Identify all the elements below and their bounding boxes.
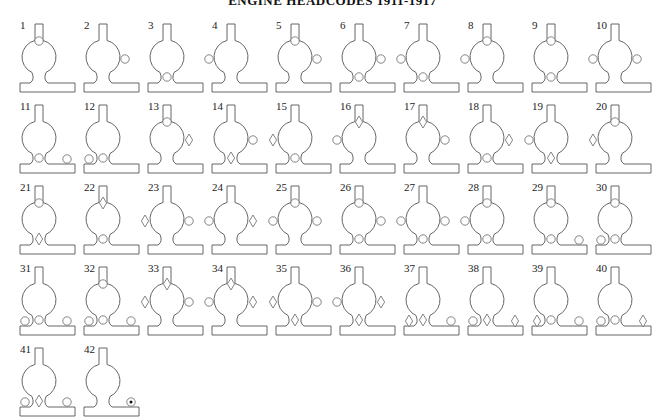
lamp-icon: [21, 317, 29, 325]
headcode-figure: 10: [596, 20, 660, 100]
lamp-icon: [291, 37, 299, 45]
headcode-figure: 7: [404, 20, 468, 100]
diamond-disc-icon: [99, 197, 106, 209]
lamp-icon: [205, 298, 213, 306]
lamp-icon: [313, 298, 321, 306]
diamond-disc-icon: [249, 296, 256, 308]
headcode-figure: 16: [340, 101, 404, 181]
lamp-icon: [291, 199, 299, 207]
headcode-figure: 1: [20, 20, 84, 100]
headcode-figure: 22: [84, 182, 148, 262]
lamp-icon: [35, 37, 43, 45]
lamp-icon: [85, 155, 93, 163]
lamp-icon: [249, 136, 257, 144]
lamp-icon: [63, 317, 71, 325]
lamp-icon: [597, 236, 605, 244]
lamp-icon: [99, 316, 107, 324]
headcode-figure: 21: [20, 182, 84, 262]
locomotive-outline-icon: [404, 263, 468, 343]
headcode-figure: 19: [532, 101, 596, 181]
lamp-icon: [611, 199, 619, 207]
lamp-icon: [547, 316, 555, 324]
locomotive-outline-icon: [340, 101, 404, 181]
headcode-figure: 27: [404, 182, 468, 262]
diamond-disc-icon: [419, 116, 426, 128]
headcode-figure: 8: [468, 20, 532, 100]
lamp-icon: [121, 55, 129, 63]
lamp-icon: [63, 155, 71, 163]
locomotive-outline-icon: [276, 101, 340, 181]
headcode-figure: 3: [148, 20, 212, 100]
headcode-figure: 35: [276, 263, 340, 343]
locomotive-outline-icon: [468, 101, 532, 181]
lamp-icon: [99, 280, 107, 288]
lamp-icon: [483, 235, 491, 243]
diamond-disc-icon: [249, 215, 256, 227]
lamp-icon: [355, 199, 363, 207]
lamp-icon: [397, 217, 405, 225]
dot-icon: [130, 401, 133, 404]
headcode-figure: 40: [596, 263, 660, 343]
locomotive-outline-icon: [468, 182, 532, 262]
diamond-disc-icon: [419, 314, 426, 326]
locomotive-outline-icon: [596, 263, 660, 343]
headcode-figure: 9: [532, 20, 596, 100]
diamond-disc-icon: [511, 315, 518, 327]
lamp-icon: [313, 55, 321, 63]
lamp-icon: [547, 73, 555, 81]
lamp-icon: [291, 154, 299, 162]
lamp-icon: [35, 154, 43, 162]
headcode-figure: 32: [84, 263, 148, 343]
headcode-figure: 33: [148, 263, 212, 343]
headcode-figure: 31: [20, 263, 84, 343]
lamp-icon: [355, 73, 363, 81]
headcode-figure: 42: [84, 344, 148, 419]
locomotive-outline-icon: [404, 20, 468, 100]
headcode-figure: 38: [468, 263, 532, 343]
lamp-icon: [269, 217, 277, 225]
diamond-disc-icon: [291, 314, 298, 326]
lamp-icon: [333, 136, 341, 144]
lamp-icon: [461, 217, 469, 225]
locomotive-outline-icon: [20, 182, 84, 262]
lamp-icon: [333, 298, 341, 306]
lamp-icon: [483, 199, 491, 207]
lamp-icon: [355, 235, 363, 243]
headcode-figure: 4: [212, 20, 276, 100]
lamp-icon: [35, 316, 43, 324]
headcode-figure: 14: [212, 101, 276, 181]
headcode-figure: 17: [404, 101, 468, 181]
locomotive-outline-icon: [20, 101, 84, 181]
diamond-disc-icon: [533, 315, 540, 327]
headcode-figure: 34: [212, 263, 276, 343]
locomotive-outline-icon: [84, 263, 148, 343]
locomotive-outline-icon: [596, 182, 660, 262]
lamp-icon: [35, 199, 43, 207]
locomotive-outline-icon: [532, 101, 596, 181]
locomotive-outline-icon: [212, 182, 276, 262]
lamp-icon: [441, 136, 449, 144]
lamp-icon: [447, 317, 455, 325]
lamp-icon: [377, 217, 385, 225]
locomotive-outline-icon: [276, 182, 340, 262]
headcode-figure: 12: [84, 101, 148, 181]
lamp-icon: [575, 317, 583, 325]
lamp-icon: [461, 55, 469, 63]
diamond-disc-icon: [185, 134, 192, 146]
locomotive-outline-icon: [404, 182, 468, 262]
headcode-figure: 15: [276, 101, 340, 181]
diamond-disc-icon: [639, 315, 646, 327]
lamp-icon: [589, 55, 597, 63]
locomotive-outline-icon: [532, 182, 596, 262]
headcode-figure: 39: [532, 263, 596, 343]
locomotive-outline-icon: [148, 101, 212, 181]
diamond-disc-icon: [547, 152, 554, 164]
headcode-figure: 11: [20, 101, 84, 181]
lamp-icon: [63, 398, 71, 406]
headcode-figure: 2: [84, 20, 148, 100]
headcode-figure: 37: [404, 263, 468, 343]
diamond-disc-icon: [227, 278, 234, 290]
lamp-icon: [633, 55, 641, 63]
headcode-figure: 36: [340, 263, 404, 343]
lamp-icon: [525, 136, 533, 144]
